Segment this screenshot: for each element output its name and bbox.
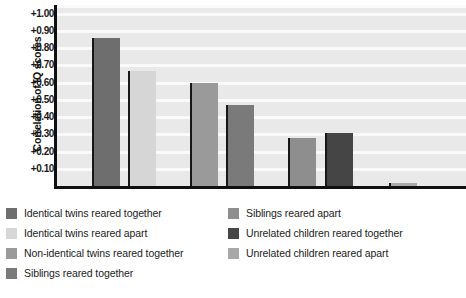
legend-item[interactable]: Unrelated children reared together	[228, 223, 466, 243]
legend-item[interactable]: Unrelated children reared apart	[228, 243, 466, 263]
legend-swatch-icon	[228, 208, 239, 219]
legend-label: Unrelated children reared apart	[246, 247, 388, 259]
legend-swatch-icon	[6, 208, 17, 219]
y-tick-label: +0.50	[18, 95, 54, 105]
legend-item[interactable]: Identical twins reared together	[6, 203, 226, 223]
legend-label: Identical twins reared together	[24, 207, 162, 219]
legend-swatch-icon	[228, 248, 239, 259]
y-axis-tick-labels: +1.00+0.90+0.80+0.70+0.60+0.50+0.40+0.30…	[18, 0, 54, 190]
y-tick-label: +0.90	[18, 26, 54, 36]
y-tick-label: +0.70	[18, 60, 54, 70]
y-tick-label: +0.60	[18, 78, 54, 88]
bar	[92, 38, 120, 186]
y-tick-label: +0.10	[18, 164, 54, 174]
legend-item[interactable]: Siblings reared apart	[228, 203, 466, 223]
bar	[190, 83, 218, 186]
legend-swatch-icon	[6, 248, 17, 259]
legend: Identical twins reared togetherIdentical…	[0, 203, 466, 298]
iq-correlation-bar-chart: Correlation of IQ scores +1.00+0.90+0.80…	[0, 0, 466, 298]
legend-label: Unrelated children reared together	[246, 227, 403, 239]
bar	[325, 133, 353, 186]
legend-label: Siblings reared together	[24, 267, 133, 279]
y-tick-label: +0.80	[18, 43, 54, 53]
bar	[288, 138, 316, 186]
legend-label: Siblings reared apart	[246, 207, 341, 219]
bar	[389, 183, 417, 186]
y-tick-label: +0.30	[18, 129, 54, 139]
legend-item[interactable]: Identical twins reared apart	[6, 223, 226, 243]
legend-swatch-icon	[228, 228, 239, 239]
legend-item[interactable]: Non-identical twins reared together	[6, 243, 226, 263]
bar-series	[57, 5, 466, 186]
bar	[128, 71, 156, 186]
legend-label: Non-identical twins reared together	[24, 247, 183, 259]
y-tick-label: +0.40	[18, 112, 54, 122]
legend-label: Identical twins reared apart	[24, 227, 147, 239]
legend-column-left: Identical twins reared togetherIdentical…	[6, 203, 226, 283]
legend-swatch-icon	[6, 228, 17, 239]
legend-swatch-icon	[6, 268, 17, 279]
plot-area	[54, 5, 466, 189]
y-tick-label: +1.00	[18, 9, 54, 19]
y-tick-label: +0.20	[18, 147, 54, 157]
legend-item[interactable]: Siblings reared together	[6, 263, 226, 283]
legend-column-right: Siblings reared apartUnrelated children …	[228, 203, 466, 263]
bar	[226, 105, 254, 186]
